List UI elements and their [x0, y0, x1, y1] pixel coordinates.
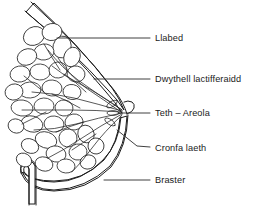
lobule: [34, 98, 55, 115]
label-cronfa-laeth: Cronfa laeth: [155, 143, 206, 153]
label-teth-areola: Teth – Areola: [155, 108, 211, 118]
label-dwythell-lactifferaidd: Dwythell lactifferaidd: [155, 74, 241, 84]
lobule-cluster: [3, 22, 107, 174]
lobule: [10, 99, 34, 118]
nipple-contour: [124, 101, 134, 114]
breast-anatomy-figure: Llabed Dwythell lactifferaidd Teth – Are…: [0, 0, 253, 210]
lobule: [29, 63, 50, 80]
lobule: [66, 64, 87, 83]
anatomy-diagram-root: Llabed Dwythell lactifferaidd Teth – Are…: [0, 0, 253, 210]
label-braster: Braster: [155, 175, 185, 185]
label-llabed: Llabed: [155, 33, 183, 43]
lobule: [9, 64, 31, 83]
lobule: [43, 115, 65, 133]
